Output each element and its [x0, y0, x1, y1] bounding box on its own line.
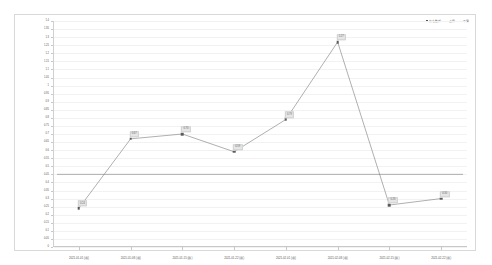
x-tick-mark — [441, 247, 442, 250]
x-tick-label: 2021-01-15 (週) — [172, 256, 192, 260]
x-tick-mark — [182, 247, 183, 250]
x-tick-mark — [79, 247, 80, 250]
x-tick-label: 2021-02-08 (週) — [328, 256, 348, 260]
data-point-marker[interactable] — [233, 150, 236, 153]
y-tick-label: 1.25 — [44, 44, 49, 47]
y-tick-label: 0.7 — [45, 132, 49, 135]
x-tick-label: 2021-02-15 (週) — [379, 256, 399, 260]
data-point-marker[interactable] — [285, 118, 288, 121]
data-point-marker[interactable] — [181, 133, 184, 136]
series-line — [79, 42, 441, 208]
data-point-label: 0.67 — [129, 131, 138, 137]
y-tick-label: 0 — [48, 245, 49, 248]
plot-area: 1.41.351.31.251.21.151.11.0510.950.90.85… — [53, 21, 467, 247]
y-tick-label: 1.4 — [45, 19, 49, 22]
data-point-label: 0.79 — [285, 112, 294, 118]
y-tick-label: 0.8 — [45, 116, 49, 119]
x-tick-mark — [234, 247, 235, 250]
data-point-label: 0.59 — [233, 144, 242, 150]
y-tick-label: 1.1 — [45, 68, 49, 71]
series-lines — [53, 21, 467, 247]
x-tick-mark — [286, 247, 287, 250]
y-tick-label: 0.9 — [45, 100, 49, 103]
y-tick-label: 0.25 — [44, 205, 49, 208]
y-tick-label: 0.4 — [45, 181, 49, 184]
x-tick-mark — [338, 247, 339, 250]
y-tick-mark — [51, 247, 53, 248]
y-tick-label: 0.65 — [44, 140, 49, 143]
y-tick-label: 0.1 — [45, 229, 49, 232]
y-tick-label: 1.2 — [45, 52, 49, 55]
y-tick-label: 0.05 — [44, 237, 49, 240]
y-tick-label: 0.2 — [45, 213, 49, 216]
y-tick-label: 1.05 — [44, 76, 49, 79]
x-tick-label: 2021-02-01 (週) — [276, 256, 296, 260]
y-tick-label: 0.55 — [44, 157, 49, 160]
data-point-label: 0.26 — [388, 197, 397, 203]
y-tick-label: 0.85 — [44, 108, 49, 111]
data-point-marker[interactable] — [78, 207, 81, 210]
data-point-label: 0.24 — [78, 201, 87, 207]
y-tick-label: 0.3 — [45, 197, 49, 200]
chart-container: 比之數據 上限 下限 1.41.351.31.251.21.151.11.051… — [14, 14, 476, 251]
y-tick-label: 1.15 — [44, 60, 49, 63]
data-point-marker[interactable] — [336, 41, 339, 44]
y-tick-label: 1.3 — [45, 36, 49, 39]
y-tick-label: 0.35 — [44, 189, 49, 192]
y-tick-label: 0.75 — [44, 124, 49, 127]
x-tick-label: 2021-02-22 (週) — [431, 256, 451, 260]
data-point-marker[interactable] — [129, 138, 132, 141]
y-tick-label: 0.15 — [44, 221, 49, 224]
y-tick-label: 0.6 — [45, 149, 49, 152]
y-tick-label: 1 — [48, 84, 49, 87]
y-tick-label: 0.5 — [45, 165, 49, 168]
data-point-marker[interactable] — [388, 204, 391, 207]
x-tick-label: 2021-01-08 (週) — [121, 256, 141, 260]
x-tick-label: 2021-01-22 (週) — [224, 256, 244, 260]
x-tick-mark — [389, 247, 390, 250]
data-point-label: 1.27 — [336, 34, 345, 40]
x-tick-mark — [131, 247, 132, 250]
data-point-label: 0.70 — [181, 126, 190, 132]
y-tick-label: 0.95 — [44, 92, 49, 95]
y-tick-label: 0.45 — [44, 173, 49, 176]
data-point-label: 0.30 — [440, 191, 449, 197]
y-tick-label: 1.35 — [44, 27, 49, 30]
data-point-marker[interactable] — [440, 197, 443, 200]
gridline — [54, 247, 467, 248]
x-tick-label: 2021-01-01 (週) — [69, 256, 89, 260]
